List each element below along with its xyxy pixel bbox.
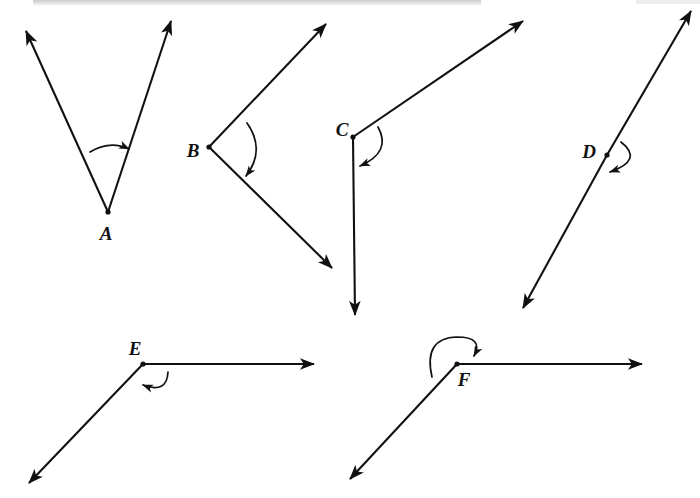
angle-group-e: E	[29, 338, 314, 483]
vertex-dot-a	[105, 209, 110, 214]
vertex-label-c: C	[336, 119, 349, 140]
angle-diagram-root: A B C D	[0, 0, 700, 498]
ray-b-lower	[209, 147, 332, 268]
vertex-label-d: D	[581, 141, 596, 162]
vertex-label-b: B	[186, 140, 200, 161]
arc-b	[246, 123, 256, 176]
angle-group-f: F	[350, 337, 642, 479]
vertex-dot-c	[350, 134, 355, 139]
vertex-label-e: E	[128, 338, 142, 359]
ray-f-lower-left	[350, 364, 457, 479]
angle-group-b: B	[186, 24, 332, 268]
arc-c	[360, 127, 382, 166]
vertex-dot-b	[206, 144, 211, 149]
ray-c-upper-right	[353, 21, 523, 137]
angles-figure: A B C D	[0, 0, 700, 498]
ray-c-down	[353, 137, 355, 315]
angle-group-d: D	[523, 11, 691, 308]
vertex-label-f: F	[457, 369, 471, 390]
ray-e-lower-left	[29, 364, 143, 483]
ray-a-right	[108, 21, 171, 212]
vertex-dot-f	[454, 361, 459, 366]
arc-a	[90, 145, 129, 152]
ray-d-upper-right	[607, 11, 691, 155]
ray-d-lower-left	[523, 155, 607, 308]
vertex-label-a: A	[99, 223, 113, 244]
vertex-dot-d	[604, 152, 609, 157]
vertex-dot-e	[140, 361, 145, 366]
arc-e	[143, 372, 168, 388]
ray-a-left	[26, 31, 108, 212]
angle-group-a: A	[26, 21, 171, 244]
angle-group-c: C	[336, 21, 523, 315]
ray-b-upper	[209, 24, 326, 147]
